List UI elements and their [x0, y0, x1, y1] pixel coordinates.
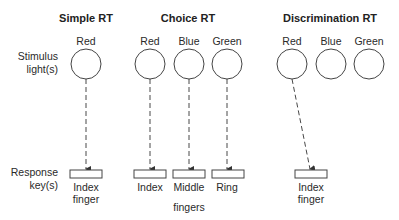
choice-key-ring: [212, 170, 244, 178]
simple-light-label: Red: [76, 35, 95, 47]
response-label-1: Response: [0, 166, 58, 178]
choice-key-label-middle: Middle: [174, 181, 205, 193]
choice-light-label-blue: Blue: [178, 35, 199, 47]
simple-key: [70, 170, 102, 178]
choice-keys-caption: fingers: [173, 201, 205, 213]
choice-key-label-ring: Ring: [216, 181, 238, 193]
choice-key-label-index: Index: [137, 181, 163, 193]
heading-choice-rt: Choice RT: [161, 12, 215, 24]
choice-key-middle: [173, 170, 205, 178]
disc-key-label-2: finger: [298, 193, 324, 205]
choice-red-light: [135, 49, 165, 79]
choice-blue-light: [174, 49, 204, 79]
disc-light-label-blue: Blue: [320, 35, 341, 47]
simple-red-light: [71, 49, 101, 79]
disc-key: [295, 170, 327, 178]
simple-key-label-2: finger: [73, 193, 99, 205]
heading-simple-rt: Simple RT: [59, 12, 113, 24]
disc-red-arrow: [292, 79, 310, 169]
choice-key-index: [134, 170, 166, 178]
disc-red-light: [277, 49, 307, 79]
choice-green-light: [212, 49, 242, 79]
heading-discrimination-rt: Discrimination RT: [283, 12, 377, 24]
disc-light-label-green: Green: [354, 35, 383, 47]
disc-blue-light: [316, 49, 346, 79]
choice-light-label-red: Red: [140, 35, 159, 47]
disc-green-light: [354, 49, 384, 79]
disc-key-label-1: Index: [298, 181, 324, 193]
stimulus-label-2: light(s): [0, 63, 58, 75]
choice-light-label-green: Green: [212, 35, 241, 47]
disc-light-label-red: Red: [282, 35, 301, 47]
stimulus-label-1: Stimulus: [0, 50, 58, 62]
response-label-2: key(s): [0, 179, 58, 191]
simple-key-label-1: Index: [73, 181, 99, 193]
